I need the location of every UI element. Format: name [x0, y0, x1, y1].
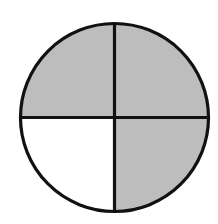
fraction-circle-diagram: [0, 0, 218, 224]
